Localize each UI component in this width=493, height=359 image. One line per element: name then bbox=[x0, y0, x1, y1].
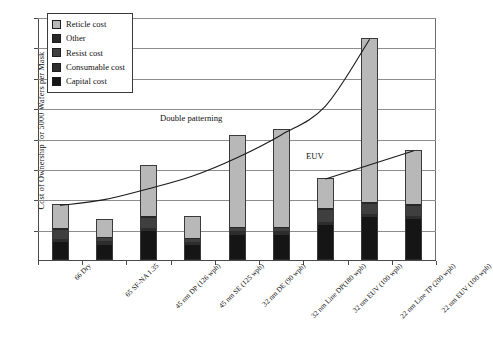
bar-segment-reticle-cost bbox=[184, 216, 201, 237]
bar-segment-capital-cost bbox=[229, 235, 246, 260]
bar-2 bbox=[140, 165, 157, 260]
bar-segment-capital-cost bbox=[140, 231, 157, 260]
chart-legend: Reticle costOtherResist costConsumable c… bbox=[47, 13, 133, 93]
legend-item-label: Resist cost bbox=[66, 49, 103, 58]
x-axis-label-3: 45 nm SE (125 wph) bbox=[217, 262, 265, 310]
bar-segment-reticle-cost bbox=[96, 219, 113, 237]
x-axis-label-2: 45 nm DP (126 wph) bbox=[173, 262, 221, 310]
bar-5 bbox=[273, 129, 290, 260]
legend-item-resist-cost: Resist cost bbox=[52, 46, 125, 60]
x-axis-label-layer: 66 Dry65 SF-NA 1.3545 nm DP (126 wph)45 … bbox=[38, 262, 436, 359]
bar-segment-capital-cost bbox=[52, 242, 69, 260]
legend-item-label: Reticle cost bbox=[66, 20, 106, 29]
x-axis-label-0: 66 Dry bbox=[73, 262, 93, 282]
legend-item-label: Other bbox=[66, 34, 86, 43]
bar-segment-reticle-cost bbox=[229, 135, 246, 228]
legend-item-capital-cost: Capital cost bbox=[52, 75, 125, 89]
bar-segment-capital-cost bbox=[405, 219, 422, 260]
bar-6 bbox=[317, 178, 334, 260]
annotation-euv: EUV bbox=[306, 151, 324, 161]
legend-swatch-icon bbox=[52, 48, 61, 57]
legend-swatch-icon bbox=[52, 77, 61, 86]
bar-segment-resist-cost bbox=[140, 218, 157, 228]
bar-8 bbox=[405, 150, 422, 260]
annotation-double-patterning: Double patterning bbox=[160, 113, 222, 123]
x-axis-tick bbox=[436, 261, 437, 265]
bar-segment-resist-cost bbox=[361, 204, 378, 214]
x-axis-label-4: 32 nm DE (90 wph) bbox=[261, 262, 307, 308]
legend-item-other: Other bbox=[52, 31, 125, 45]
bar-segment-resist-cost bbox=[317, 210, 334, 222]
bar-segment-resist-cost bbox=[405, 206, 422, 216]
legend-swatch-icon bbox=[52, 20, 61, 29]
bar-7 bbox=[361, 38, 378, 260]
bar-segment-reticle-cost bbox=[140, 165, 157, 216]
bar-segment-capital-cost bbox=[184, 245, 201, 260]
bar-segment-reticle-cost bbox=[317, 178, 334, 208]
bar-segment-capital-cost bbox=[273, 235, 290, 260]
bar-segment-capital-cost bbox=[96, 245, 113, 260]
bar-segment-reticle-cost bbox=[361, 38, 378, 202]
bar-segment-capital-cost bbox=[317, 225, 334, 260]
bar-segment-reticle-cost bbox=[273, 129, 290, 227]
bar-segment-reticle-cost bbox=[405, 150, 422, 205]
bar-1 bbox=[96, 219, 113, 260]
bar-segment-capital-cost bbox=[361, 217, 378, 260]
legend-swatch-icon bbox=[52, 34, 61, 43]
x-axis-label-1: 65 SF-NA 1.35 bbox=[124, 262, 161, 299]
legend-item-reticle-cost: Reticle cost bbox=[52, 17, 125, 31]
bar-4 bbox=[229, 135, 246, 260]
bar-3 bbox=[184, 216, 201, 260]
bar-segment-reticle-cost bbox=[52, 204, 69, 228]
bar-0 bbox=[52, 204, 69, 260]
legend-swatch-icon bbox=[52, 63, 61, 72]
legend-item-label: Consumable cost bbox=[66, 63, 125, 72]
legend-item-label: Capital cost bbox=[66, 77, 107, 86]
bar-segment-resist-cost bbox=[52, 230, 69, 240]
legend-item-consumable-cost: Consumable cost bbox=[52, 60, 125, 74]
